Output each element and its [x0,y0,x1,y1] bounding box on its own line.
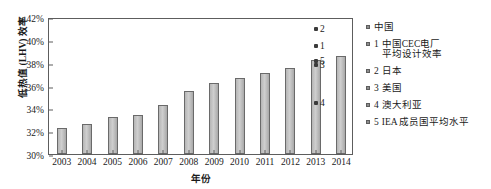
bar-column: 2004 [74,19,99,154]
y-axis-tick-label: 42% [27,14,49,24]
legend-item[interactable]: 中国 [366,22,490,33]
bar-column: 2013 [303,19,328,154]
marker-dot [314,59,318,63]
bar-column: 2008 [176,19,201,154]
y-axis-tick-label: 40% [27,37,49,47]
y-axis-tick-mark [49,110,53,111]
bar [285,68,295,154]
bar-column: 2010 [227,19,252,154]
bar [235,78,245,154]
marker-dot [314,101,318,105]
marker-label: 2 [320,24,325,34]
x-axis-tick-mark [290,150,291,154]
x-axis-tick-mark [315,150,316,154]
y-axis-tick-mark [49,41,53,42]
legend-marker-icon [366,69,370,73]
data-point-marker: 5 [314,59,318,63]
data-point-marker: 1 [314,44,318,48]
legend-marker-icon [366,86,370,90]
x-axis-tick-mark [137,150,138,154]
y-axis-tick-mark [49,87,53,88]
x-axis-tick-label: 2009 [205,157,224,167]
data-point-marker: 4 [314,101,318,105]
legend-item-number: 4 [374,100,379,111]
legend-item-label: 美国 [382,83,490,94]
y-axis-tick-label: 38% [27,60,49,70]
legend-marker-icon [366,25,370,29]
legend-item-label: IEA 成员国平均水平 [382,117,490,128]
chart-legend: 中国1中国CEC电厂平均设计效率2日本3美国4澳大利亚5IEA 成员国平均水平 [366,22,490,134]
legend-item-number: 1 [374,39,379,50]
bar-column: 2014 [329,19,354,154]
plot-area: 2003200420052006200720082009201020112012… [48,18,353,155]
y-axis-tick-label: 36% [27,83,49,93]
x-axis-tick-label: 2012 [281,157,300,167]
legend-item[interactable]: 2日本 [366,66,490,77]
x-axis-tick-label: 2007 [154,157,173,167]
data-point-marker: 3 [314,63,318,67]
legend-item-label: 中国 [374,22,490,33]
legend-item[interactable]: 1中国CEC电厂平均设计效率 [366,39,490,59]
x-axis-tick-mark [341,150,342,154]
bar [209,83,219,154]
legend-marker-icon [366,42,370,46]
y-axis-tick-mark [49,19,53,20]
y-axis-tick-label: 30% [27,151,49,161]
x-axis-tick-label: 2013 [306,157,325,167]
x-axis-tick-label: 2006 [128,157,147,167]
bar-column: 2005 [100,19,125,154]
marker-dot [314,63,318,67]
marker-dot [314,27,318,31]
x-axis-tick-mark [214,150,215,154]
legend-item-number: 5 [374,117,379,128]
bar [336,56,346,154]
x-axis-tick-label: 2010 [230,157,249,167]
bars-container: 2003200420052006200720082009201020112012… [49,19,352,154]
bar [260,73,270,154]
x-axis-title: 年份 [48,171,353,185]
legend-item-number: 2 [374,66,379,77]
y-axis-tick-label: 32% [27,128,49,138]
legend-marker-icon [366,120,370,124]
x-axis-tick-label: 2003 [52,157,71,167]
legend-marker-icon [366,103,370,107]
x-axis-tick-label: 2008 [179,157,198,167]
bar-column: 2011 [252,19,277,154]
x-axis-tick-mark [87,150,88,154]
bar-column: 2012 [278,19,303,154]
legend-item[interactable]: 5IEA 成员国平均水平 [366,117,490,128]
bar [133,115,143,154]
y-axis-tick-mark [49,64,53,65]
bar [184,91,194,154]
x-axis-tick-mark [163,150,164,154]
chart-figure: 低热值 (LHV) 效率 200320042005200620072008200… [0,0,491,189]
legend-item-number: 3 [374,83,379,94]
bar-column: 2007 [151,19,176,154]
legend-item-label: 澳大利亚 [382,100,490,111]
marker-label: 5 [320,56,325,66]
legend-item-label: 中国CEC电厂平均设计效率 [382,39,490,59]
legend-item[interactable]: 4澳大利亚 [366,100,490,111]
x-axis-tick-mark [188,150,189,154]
data-point-marker: 2 [314,27,318,31]
marker-label: 1 [320,41,325,51]
y-axis-tick-mark [49,156,53,157]
x-axis-tick-mark [61,150,62,154]
x-axis-tick-mark [112,150,113,154]
bar [158,105,168,154]
legend-item[interactable]: 3美国 [366,83,490,94]
y-axis-tick-label: 34% [27,105,49,115]
x-axis-tick-label: 2011 [256,157,275,167]
marker-label: 4 [320,98,325,108]
y-axis-tick-mark [49,133,53,134]
x-axis-tick-label: 2004 [78,157,97,167]
legend-item-label: 日本 [382,66,490,77]
x-axis-tick-mark [265,150,266,154]
x-axis-tick-label: 2014 [332,157,351,167]
bar-column: 2006 [125,19,150,154]
bar-column: 2009 [202,19,227,154]
x-axis-tick-mark [239,150,240,154]
bar [108,117,118,154]
marker-dot [314,44,318,48]
x-axis-tick-label: 2005 [103,157,122,167]
